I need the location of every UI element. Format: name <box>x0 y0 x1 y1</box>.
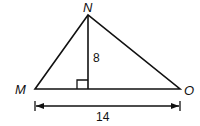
triangle-diagram: N M O 8 14 <box>0 0 200 126</box>
vertex-label-m: M <box>15 82 26 97</box>
vertex-label-o: O <box>184 83 194 98</box>
altitude-length-label: 8 <box>93 51 100 65</box>
triangle-mno <box>35 15 180 89</box>
right-angle-marker <box>77 80 88 89</box>
vertex-label-n: N <box>83 0 93 15</box>
arrowhead-left <box>36 103 44 109</box>
base-length-label: 14 <box>96 110 110 124</box>
arrowhead-right <box>171 103 179 109</box>
